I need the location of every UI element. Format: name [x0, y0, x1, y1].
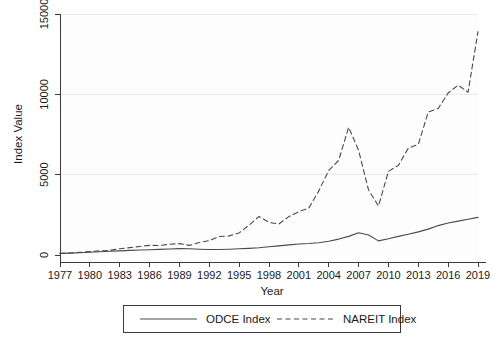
x-tick-label: 1992: [197, 269, 221, 281]
x-tick-label: 1989: [167, 269, 191, 281]
x-tick-label: 2010: [376, 269, 400, 281]
x-axis-tick-labels: 1977198019831986198919921995199820012004…: [48, 269, 490, 281]
line-chart: 050001000015000 197719801983198619891992…: [0, 0, 493, 342]
x-axis-title: Year: [260, 285, 283, 297]
legend-label-odce-index: ODCE Index: [206, 313, 271, 325]
x-tick-label: 1986: [137, 269, 161, 281]
x-tick-label: 2019: [466, 269, 490, 281]
x-tick-label: 2007: [346, 269, 370, 281]
chart-legend: ODCE IndexNAREIT Index: [124, 306, 417, 333]
x-tick-label: 2013: [406, 269, 430, 281]
x-tick-label: 1995: [227, 269, 251, 281]
plot-area-background: [60, 14, 478, 255]
y-axis-title: Index Value: [12, 104, 24, 164]
x-tick-label: 2016: [436, 269, 460, 281]
chart-figure: 050001000015000 197719801983198619891992…: [0, 0, 493, 342]
y-tick-label: 0: [38, 252, 50, 258]
x-tick-label: 1998: [257, 269, 281, 281]
y-tick-label: 15000: [38, 0, 50, 29]
y-tick-label: 5000: [38, 162, 50, 186]
x-tick-label: 1977: [48, 269, 72, 281]
x-tick-label: 2004: [316, 269, 340, 281]
x-tick-label: 2001: [287, 269, 311, 281]
y-tick-label: 10000: [38, 79, 50, 110]
x-tick-label: 1983: [107, 269, 131, 281]
x-tick-label: 1980: [78, 269, 102, 281]
legend-label-nareit-index: NAREIT Index: [343, 313, 417, 325]
